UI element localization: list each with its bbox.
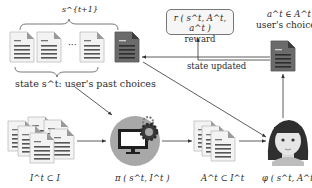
- ellipsis: ···: [68, 41, 77, 50]
- candidate-items-stack: [8, 117, 74, 163]
- policy-computer-icon: [110, 116, 160, 166]
- user-choice-label: user's choice: [256, 21, 312, 30]
- new-choice-document: [115, 32, 139, 62]
- past-choices-documents: [10, 32, 104, 62]
- state-next-label: s^{t+1}: [62, 6, 98, 14]
- state-caption: state s^t: user's past choices: [15, 79, 156, 89]
- state-to-policy-arrow: [75, 87, 112, 115]
- candidates-label: I^t ⊂ I: [30, 174, 60, 183]
- state-updated-label: state updated: [187, 62, 246, 71]
- policy-label: π ( s^t, I^t ): [115, 174, 170, 183]
- recommended-set-stack: [194, 121, 235, 161]
- reward-label: reward: [167, 34, 233, 44]
- reward-box: r ( s^t, A^t, a^t ) reward: [166, 9, 234, 35]
- user-choice-formula: a^t ∈ A^t: [267, 10, 311, 19]
- user-avatar: [268, 120, 308, 166]
- state-brace: [15, 67, 98, 77]
- state-next-brace: [20, 19, 118, 30]
- recommended-label: A^t ⊂ I^t: [201, 174, 244, 183]
- reward-formula: r ( s^t, A^t, a^t ): [167, 13, 233, 33]
- user-choice-document: [271, 41, 295, 71]
- user-model-label: φ ( s^t, A^t ): [262, 174, 312, 183]
